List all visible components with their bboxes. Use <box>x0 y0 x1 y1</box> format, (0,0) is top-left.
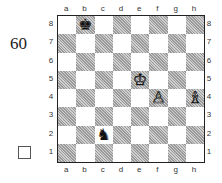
rank-label-left-2: 2 <box>47 129 55 138</box>
square-c3 <box>95 107 113 125</box>
square-g3 <box>168 107 186 125</box>
chess-board: ♚♔♙♗♞ <box>57 15 205 163</box>
square-g1 <box>168 144 186 162</box>
square-b2 <box>76 126 94 144</box>
problem-number: 60 <box>10 34 27 54</box>
square-a4 <box>58 89 76 107</box>
square-e5: ♔ <box>131 71 149 89</box>
square-b3 <box>76 107 94 125</box>
square-a8 <box>58 16 76 34</box>
square-b6 <box>76 53 94 71</box>
file-label-top-d: d <box>112 4 130 13</box>
rank-label-left-3: 3 <box>47 110 55 119</box>
black-king-icon: ♚ <box>78 17 92 33</box>
square-a7 <box>58 34 76 52</box>
file-label-top-c: c <box>94 4 112 13</box>
square-b8: ♚ <box>76 16 94 34</box>
file-label-bottom-f: f <box>148 165 166 174</box>
square-c5 <box>95 71 113 89</box>
square-d8 <box>113 16 131 34</box>
file-label-top-b: b <box>75 4 93 13</box>
square-d2 <box>113 126 131 144</box>
square-h7 <box>186 34 204 52</box>
square-e7 <box>131 34 149 52</box>
square-b4 <box>76 89 94 107</box>
square-g4 <box>168 89 186 107</box>
square-d7 <box>113 34 131 52</box>
square-e2 <box>131 126 149 144</box>
square-e3 <box>131 107 149 125</box>
square-d4 <box>113 89 131 107</box>
rank-label-left-4: 4 <box>47 92 55 101</box>
square-c6 <box>95 53 113 71</box>
file-label-bottom-e: e <box>130 165 148 174</box>
square-h4: ♗ <box>186 89 204 107</box>
rank-label-left-6: 6 <box>47 56 55 65</box>
square-g7 <box>168 34 186 52</box>
file-label-bottom-c: c <box>94 165 112 174</box>
square-d5 <box>113 71 131 89</box>
file-label-top-g: g <box>167 4 185 13</box>
square-d1 <box>113 144 131 162</box>
square-e6 <box>131 53 149 71</box>
square-a5 <box>58 71 76 89</box>
file-label-top-a: a <box>57 4 75 13</box>
square-c8 <box>95 16 113 34</box>
square-a2 <box>58 126 76 144</box>
white-king-icon: ♔ <box>133 72 147 88</box>
rank-label-right-3: 3 <box>205 110 213 119</box>
square-f4: ♙ <box>149 89 167 107</box>
square-a1 <box>58 144 76 162</box>
rank-label-left-8: 8 <box>47 19 55 28</box>
square-e1 <box>131 144 149 162</box>
rank-label-right-8: 8 <box>205 19 213 28</box>
rank-label-right-2: 2 <box>205 129 213 138</box>
rank-label-left-5: 5 <box>47 74 55 83</box>
rank-label-left-1: 1 <box>47 147 55 156</box>
square-g6 <box>168 53 186 71</box>
square-b1 <box>76 144 94 162</box>
rank-label-right-5: 5 <box>205 74 213 83</box>
black-knight-icon: ♞ <box>96 127 110 143</box>
solve-checkbox[interactable] <box>18 146 31 159</box>
square-f8 <box>149 16 167 34</box>
square-b7 <box>76 34 94 52</box>
rank-label-right-1: 1 <box>205 147 213 156</box>
file-label-bottom-h: h <box>185 165 203 174</box>
square-g8 <box>168 16 186 34</box>
square-b5 <box>76 71 94 89</box>
square-d6 <box>113 53 131 71</box>
square-f6 <box>149 53 167 71</box>
file-label-bottom-a: a <box>57 165 75 174</box>
square-h2 <box>186 126 204 144</box>
square-e8 <box>131 16 149 34</box>
square-f2 <box>149 126 167 144</box>
square-d3 <box>113 107 131 125</box>
file-label-bottom-b: b <box>75 165 93 174</box>
file-label-bottom-g: g <box>167 165 185 174</box>
square-f3 <box>149 107 167 125</box>
file-label-top-h: h <box>185 4 203 13</box>
square-h5 <box>186 71 204 89</box>
square-h1 <box>186 144 204 162</box>
square-c4 <box>95 89 113 107</box>
square-a3 <box>58 107 76 125</box>
rank-label-right-6: 6 <box>205 56 213 65</box>
file-label-top-f: f <box>148 4 166 13</box>
square-c2: ♞ <box>95 126 113 144</box>
file-label-bottom-d: d <box>112 165 130 174</box>
square-c7 <box>95 34 113 52</box>
square-h6 <box>186 53 204 71</box>
white-bishop-icon: ♗ <box>188 90 202 106</box>
square-f7 <box>149 34 167 52</box>
rank-label-right-4: 4 <box>205 92 213 101</box>
file-label-top-e: e <box>130 4 148 13</box>
square-h3 <box>186 107 204 125</box>
square-e4 <box>131 89 149 107</box>
square-f1 <box>149 144 167 162</box>
square-a6 <box>58 53 76 71</box>
square-c1 <box>95 144 113 162</box>
square-g5 <box>168 71 186 89</box>
square-g2 <box>168 126 186 144</box>
rank-label-right-7: 7 <box>205 37 213 46</box>
